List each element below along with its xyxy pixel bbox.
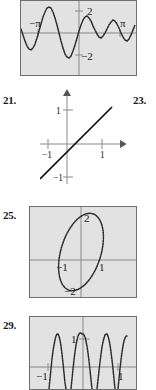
xlabel-1: 1 — [100, 150, 105, 160]
exercise-number-23: 23. — [133, 95, 146, 106]
ylabel-neg1: −1 — [53, 173, 63, 183]
graph-panel-trig-wave: 2 −2 −π π — [20, 0, 137, 76]
ylabel-2: 2 — [84, 212, 90, 224]
xlabel-neg1: −1 — [36, 370, 48, 382]
graph-panel-ellipse: 2 −2 −1 1 — [29, 206, 137, 298]
peaks-curve — [49, 333, 127, 389]
xlabel-1: 1 — [118, 370, 124, 382]
line-graph-svg: 1 −1 −1 1 — [40, 88, 126, 184]
xlabel-1: 1 — [99, 261, 105, 273]
ylabel-1: 1 — [56, 106, 61, 116]
ylabel-2: 2 — [87, 5, 93, 17]
ylabel-neg2: −2 — [81, 50, 93, 62]
ellipse-svg: 2 −2 −1 1 — [30, 207, 136, 297]
exercise-number-21: 21. — [3, 95, 16, 106]
xlabel-neg1: −1 — [56, 261, 68, 273]
exercise-number-25: 25. — [3, 210, 16, 221]
y-axis-arrow — [63, 89, 71, 96]
ylabel-1: 1 — [71, 333, 77, 345]
xlabel-neg1: −1 — [42, 150, 52, 160]
graph-panel-line: 1 −1 −1 1 — [40, 88, 126, 184]
line-curve — [40, 107, 112, 179]
ylabel-neg2: −2 — [64, 285, 76, 297]
exercise-number-29: 29. — [3, 320, 16, 331]
graph-panel-peaks: 1 −1 1 — [29, 316, 137, 390]
trig-wave-svg: 2 −2 −π π — [21, 1, 136, 75]
xlabel-pi: π — [120, 17, 126, 29]
x-axis-arrow — [120, 140, 126, 148]
peaks-svg: 1 −1 1 — [30, 317, 136, 389]
xlabel-neg-pi: −π — [29, 17, 41, 29]
